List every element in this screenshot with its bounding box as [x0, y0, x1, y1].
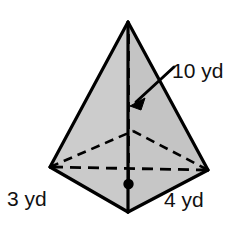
pyramid-outline [50, 22, 208, 212]
pyramid-figure: 10 yd 3 yd 4 yd [0, 0, 247, 225]
base-edge-right-label: 4 yd [164, 189, 204, 210]
base-edge-left-label: 3 yd [7, 188, 47, 209]
height-label: 10 yd [172, 60, 223, 81]
